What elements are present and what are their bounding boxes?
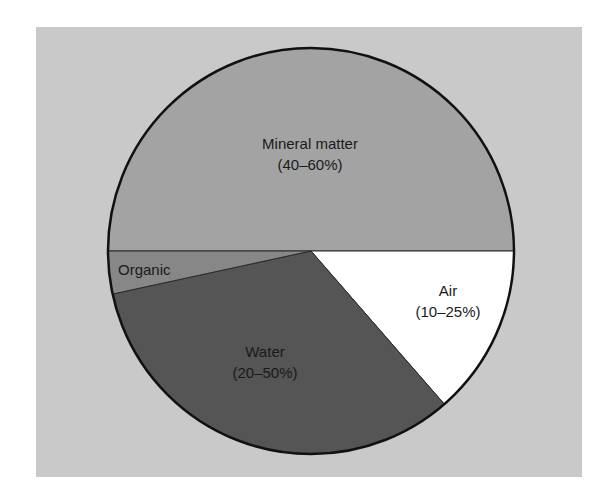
pie-slices [108,48,514,454]
chart-panel: Mineral matter (40–60%) Organic Air (10–… [36,27,582,477]
slice-label-air: Air [439,282,457,299]
pie-chart: Mineral matter (40–60%) Organic Air (10–… [36,27,582,477]
slice-range-water: (20–50%) [232,364,297,381]
slice-label-mineral: Mineral matter [262,135,358,152]
slice-range-air: (10–25%) [415,303,480,320]
slice-label-organic: Organic [118,261,171,278]
slice-label-water: Water [245,343,284,360]
slice-range-mineral: (40–60%) [277,156,342,173]
